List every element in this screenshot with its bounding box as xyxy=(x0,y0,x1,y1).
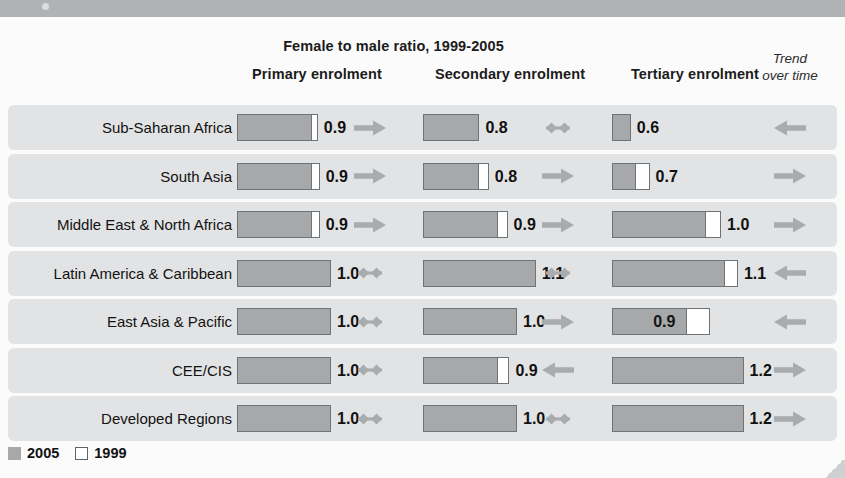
bar-2005 xyxy=(237,405,331,432)
bar-2005 xyxy=(237,260,331,287)
bar-value-label: 1.0 xyxy=(727,211,749,238)
trend-arrow-secondary xyxy=(541,361,575,379)
row-label-developed-regions: Developed Regions xyxy=(10,396,232,441)
trend-arrow-secondary xyxy=(541,167,575,185)
bar-value-label: 0.9 xyxy=(326,211,348,238)
bar-2005 xyxy=(237,114,312,141)
bar-2005 xyxy=(423,163,479,190)
bar-value-label: 0.7 xyxy=(656,163,678,190)
trend-arrow-primary xyxy=(353,216,387,234)
bar-2005 xyxy=(612,308,687,335)
legend-label-2005: 2005 xyxy=(27,445,59,461)
legend-swatch-1999 xyxy=(75,447,88,460)
trend-arrow-secondary xyxy=(538,410,578,428)
chart-legend: 20051999 xyxy=(8,445,143,473)
bar-2005 xyxy=(237,211,312,238)
bar-2005 xyxy=(423,260,536,287)
trend-arrow-primary xyxy=(353,167,387,185)
row-label-east-asia-pacific: East Asia & Pacific xyxy=(10,299,232,344)
bar-2005 xyxy=(423,357,498,384)
trend-over-time-arrow xyxy=(773,313,807,331)
row-label-latin-america-caribbean: Latin America & Caribbean xyxy=(10,251,232,296)
bar-value-label: 0.9 xyxy=(653,308,675,335)
trend-over-time-arrow xyxy=(773,119,807,137)
trend-over-time-arrow xyxy=(773,361,807,379)
trend-over-time-arrow xyxy=(773,264,807,282)
trend-over-time-arrow xyxy=(773,167,807,185)
bar-value-label: 0.6 xyxy=(637,114,659,141)
bar-value-label: 1.2 xyxy=(750,405,772,432)
window-top-bar xyxy=(0,0,845,17)
bar-value-label: 0.8 xyxy=(485,114,507,141)
trend-over-time-arrow xyxy=(773,216,807,234)
bar-2005 xyxy=(237,357,331,384)
legend-label-1999: 1999 xyxy=(94,445,126,461)
legend-swatch-2005 xyxy=(8,447,21,460)
trend-arrow-primary xyxy=(350,410,390,428)
bar-value-label: 0.9 xyxy=(324,114,346,141)
trend-arrow-secondary xyxy=(538,264,578,282)
trend-arrow-primary xyxy=(350,313,390,331)
page-corner-fold xyxy=(823,460,845,478)
bar-value-label: 1.2 xyxy=(750,357,772,384)
bar-value-label: 1.1 xyxy=(744,260,766,287)
bar-2005 xyxy=(237,163,312,190)
row-label-sub-saharan-africa: Sub-Saharan Africa xyxy=(10,105,232,150)
bar-value-label: 0.9 xyxy=(514,211,536,238)
bar-2005 xyxy=(423,405,517,432)
bar-2005 xyxy=(612,260,725,287)
bar-2005 xyxy=(423,308,517,335)
bar-2005 xyxy=(612,163,636,190)
bar-2005 xyxy=(237,308,331,335)
trend-arrow-secondary xyxy=(538,119,578,137)
row-label-middle-east-north-africa: Middle East & North Africa xyxy=(10,202,232,247)
chart-rows: Sub-Saharan Africa0.90.80.6South Asia0.9… xyxy=(0,17,845,478)
bar-value-label: 0.9 xyxy=(515,357,537,384)
trend-arrow-primary xyxy=(353,119,387,137)
bar-2005 xyxy=(612,405,744,432)
row-label-south-asia: South Asia xyxy=(10,154,232,199)
trend-arrow-primary xyxy=(350,264,390,282)
bar-value-label: 0.8 xyxy=(495,163,517,190)
bar-2005 xyxy=(423,211,498,238)
trend-arrow-secondary xyxy=(541,216,575,234)
bar-2005 xyxy=(612,114,631,141)
chart-canvas: Female to male ratio, 1999-2005 Primary … xyxy=(0,17,845,478)
bar-value-label: 0.9 xyxy=(326,163,348,190)
trend-over-time-arrow xyxy=(773,410,807,428)
row-label-cee-cis: CEE/CIS xyxy=(10,348,232,393)
bar-2005 xyxy=(612,211,706,238)
bar-2005 xyxy=(612,357,744,384)
bar-2005 xyxy=(423,114,479,141)
trend-arrow-secondary xyxy=(541,313,575,331)
trend-arrow-primary xyxy=(350,361,390,379)
top-bar-dot-icon xyxy=(42,3,49,10)
